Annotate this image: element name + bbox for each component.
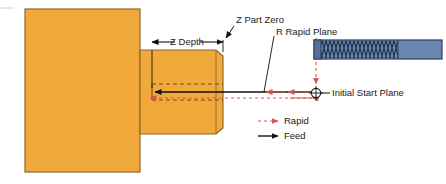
- diagram-canvas: Z Depth Z Part Zero R Rapid Plane Initia…: [0, 0, 446, 184]
- z-part-zero-leader: [226, 26, 234, 38]
- r-rapid-plane-leader: [264, 36, 274, 92]
- legend-feed-label: Feed: [284, 130, 306, 141]
- tap-tool-chamfer-tip: [314, 40, 321, 59]
- r-rapid-plane-label: R Rapid Plane: [276, 26, 337, 37]
- tapping-cycle-diagram: Z Depth Z Part Zero R Rapid Plane Initia…: [0, 0, 446, 184]
- z-part-zero-label: Z Part Zero: [236, 14, 284, 25]
- tap-tool-threads: [321, 41, 398, 58]
- z-depth-label: Z Depth: [170, 36, 204, 47]
- initial-start-plane-label: Initial Start Plane: [332, 87, 404, 98]
- workpiece-block: [25, 9, 140, 172]
- legend-rapid-label: Rapid: [284, 115, 309, 126]
